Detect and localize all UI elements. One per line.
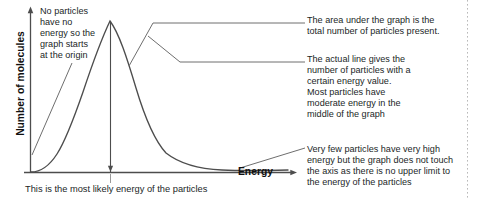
y-axis-label: Number of molecules (15, 22, 26, 146)
caption-most-likely-energy: This is the most likely energy of the pa… (25, 184, 275, 195)
annotation-area-under-graph: The area under the graph is the total nu… (307, 15, 469, 37)
annotation-origin: No particles have no energy so the graph… (40, 6, 120, 61)
leader-line-high-energy (240, 148, 305, 168)
x-axis-label: Energy (238, 166, 273, 177)
maxwell-boltzmann-diagram: Number of molecules Energy No particles … (0, 0, 478, 199)
leader-line-actual (148, 36, 305, 62)
annotation-actual-line: The actual line gives the number of part… (307, 54, 469, 121)
leader-line-origin (32, 63, 72, 155)
annotation-high-energy-tail: Very few particles have very high energy… (307, 144, 475, 188)
y-axis (28, 7, 34, 173)
leader-line-area (129, 23, 305, 66)
